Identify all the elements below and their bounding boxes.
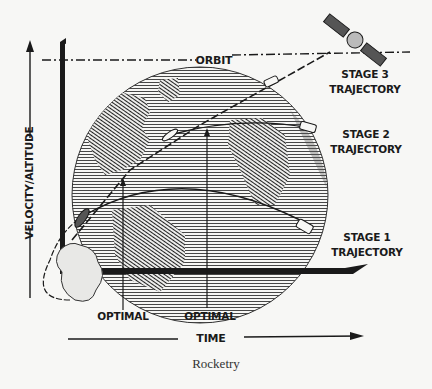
x-axis-label: TIME — [196, 332, 225, 345]
stage-1-label: STAGE 1 — [343, 231, 390, 243]
stage-3-label: STAGE 3 — [341, 68, 388, 80]
orbit-line: ORBIT — [42, 52, 410, 67]
satellite-icon — [322, 12, 389, 69]
stage-labels: STAGE 3 TRAJECTORY STAGE 2 TRAJECTORY ST… — [329, 68, 403, 258]
stage-2-label: STAGE 2 — [342, 128, 389, 140]
y-axis-label: VELOCITY/ALTITUDE — [23, 126, 35, 239]
globe — [72, 67, 330, 323]
rocketry-diagram: VELOCITY/ALTITUDE TIME ORBIT — [0, 0, 432, 389]
optimal-label-1: OPTIMAL — [97, 310, 149, 322]
stage-1-label-sub: TRAJECTORY — [331, 246, 403, 258]
optimal-label-2: OPTIMAL — [184, 310, 236, 322]
stage-3-rocket-icon — [263, 75, 279, 87]
stage-2-label-sub: TRAJECTORY — [330, 143, 402, 155]
x-axis: TIME — [68, 332, 364, 345]
diagram-caption: Rocketry — [0, 356, 432, 372]
y-axis: VELOCITY/ALTITUDE — [23, 40, 35, 298]
stage-3-label-sub: TRAJECTORY — [329, 83, 401, 95]
orbit-label: ORBIT — [196, 54, 233, 67]
